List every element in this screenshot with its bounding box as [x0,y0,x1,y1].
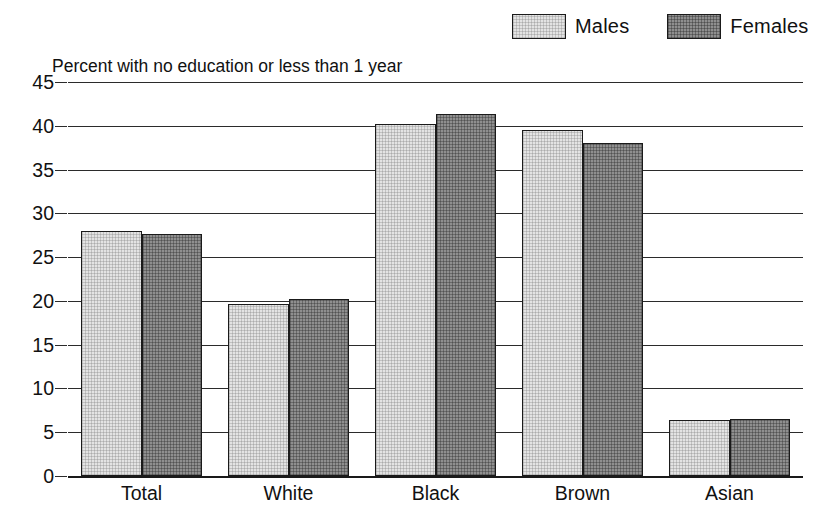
x-tick-label-total: Total [121,482,162,505]
bar-white-females [289,299,350,476]
y-tick-label-30: 30 [32,202,54,225]
y-tick-label-20: 20 [32,289,54,312]
y-tick-label-15: 15 [32,333,54,356]
y-tick-label-25: 25 [32,246,54,269]
chart-title: Percent with no education or less than 1… [52,56,402,76]
bar-brown-females [583,143,644,476]
x-tick-label-black: Black [412,482,460,505]
bar-asian-males [669,420,730,476]
bar-white-males [228,304,289,476]
y-tick-20 [55,301,67,302]
legend-entry-females: Females [667,14,808,39]
y-tick-0 [55,476,67,477]
y-tick-25 [55,257,67,258]
bar-total-males [81,231,142,476]
y-tick-label-45: 45 [32,71,54,94]
y-tick-label-10: 10 [32,377,54,400]
y-tick-30 [55,213,67,214]
y-tick-label-35: 35 [32,158,54,181]
y-tick-45 [55,82,67,83]
x-axis-category-labels: TotalWhiteBlackBrownAsian [68,482,803,512]
bar-total-females [142,234,203,476]
bar-black-males [375,124,436,476]
bar-asian-females [730,419,791,476]
bars-layer [68,82,803,476]
y-tick-label-40: 40 [32,114,54,137]
x-tick-label-brown: Brown [555,482,610,505]
legend-swatch-females-icon [667,14,721,39]
y-tick-label-5: 5 [43,421,54,444]
plot-area [68,82,803,476]
y-tick-35 [55,170,67,171]
y-tick-40 [55,126,67,127]
legend-label-females: Females [730,15,808,38]
y-tick-label-0: 0 [43,465,54,488]
gridline-0 [68,476,803,478]
legend-label-males: Males [575,15,629,38]
legend-entry-males: Males [512,14,629,39]
bar-brown-males [522,130,583,476]
x-tick-label-white: White [264,482,314,505]
y-tick-15 [55,345,67,346]
bar-black-females [436,114,497,476]
x-tick-label-asian: Asian [705,482,754,505]
y-tick-10 [55,388,67,389]
y-axis-tick-labels: 051015202530354045 [0,82,54,476]
legend-swatch-males-icon [512,14,566,39]
bar-chart: Males Females Percent with no education … [0,0,822,519]
y-tick-5 [55,432,67,433]
chart-legend: Males Females [512,14,808,39]
